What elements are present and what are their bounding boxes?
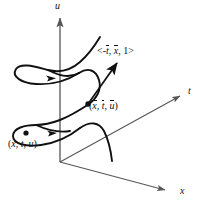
x-axis-line [60,162,165,190]
barred-point-component-x: x [92,101,96,111]
curve-lower-front-strand [36,125,70,132]
barred-point-close-paren: ) [115,100,118,111]
u-axis-label: u [55,1,60,11]
curve-upper-tail [48,37,100,71]
vector-component-x: x [114,46,118,56]
barred-point-component-u: u [110,101,115,111]
axis-group [60,18,180,190]
helix-figure: u t x <-t, x, 1> (x, t, u) (x, t, u) [0,0,204,210]
vector-component-t: t [106,46,109,56]
t-axis-label: t [188,86,191,96]
x-axis-label: x [180,186,184,196]
curve-arrow-upper-icon [46,76,56,82]
barred-point-component-t: t [102,101,105,111]
plain-point-close-paren: ) [34,138,37,149]
barred-point-label: (x, t, u) [89,101,118,111]
curve-middle [36,104,89,125]
curve-upper-descent [79,70,100,104]
tangent-vector-arrow [88,63,117,104]
point-marker-lower [23,130,28,135]
tangent-vector-label: <-t, x, 1> [97,46,134,56]
vector-close-bracket: > [128,45,134,56]
plain-point-label: (x, t, u) [8,139,37,149]
